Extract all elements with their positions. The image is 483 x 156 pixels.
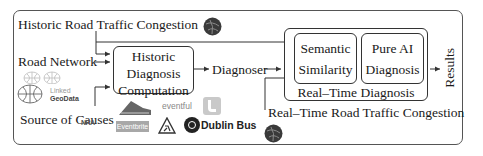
dublin-bus-logo: Dublin Bus	[201, 119, 256, 131]
traffic-authority-logo-icon	[117, 98, 153, 116]
globe-icon	[203, 17, 222, 36]
linked-geodata-line1: Linked	[50, 87, 71, 94]
pure-ai-line1: Pure AI	[362, 40, 423, 57]
realtime-congestion-label: Real–Time Road Traffic Congestion	[268, 106, 464, 120]
dublin-bus-icon	[184, 117, 200, 133]
roadworks-sign-icon	[158, 117, 176, 134]
eventbrite-logo: Eventbrite	[116, 121, 149, 132]
nra-logo: NRA	[81, 119, 95, 126]
historic-diagnosis-computation-box: Historic Diagnosis Computation	[113, 46, 194, 94]
historic-congestion-label: Historic Road Traffic Congestion	[18, 18, 198, 32]
linked-geodata-globe-icon	[16, 82, 46, 104]
eventful-logo: eventful	[162, 101, 192, 111]
historic-diagnosis-line1: Historic	[114, 48, 193, 65]
semantic-similarity-box: Semantic Similarity	[294, 33, 357, 84]
realtime-diagnosis-label: Real–Time Diagnosis	[285, 84, 427, 101]
source-of-causes-label: Source of Causes	[20, 113, 114, 127]
historic-diagnosis-line2: Diagnosis	[114, 65, 193, 82]
results-label: Results	[443, 43, 457, 93]
twitter-logo-icon	[203, 97, 221, 115]
semantic-similarity-line2: Similarity	[295, 61, 356, 78]
pure-ai-line2: Diagnosis	[362, 61, 423, 78]
historic-diagnosis-line3: Computation	[114, 82, 193, 99]
linked-geodata-line2: GeoData	[50, 95, 79, 102]
pure-ai-diagnosis-box: Pure AI Diagnosis	[361, 33, 424, 84]
semantic-similarity-line1: Semantic	[295, 40, 356, 57]
globe-icon-realtime	[264, 124, 283, 143]
road-network-label: Road Network	[18, 55, 97, 69]
diagnoser-label: Diagnoser	[212, 63, 267, 77]
